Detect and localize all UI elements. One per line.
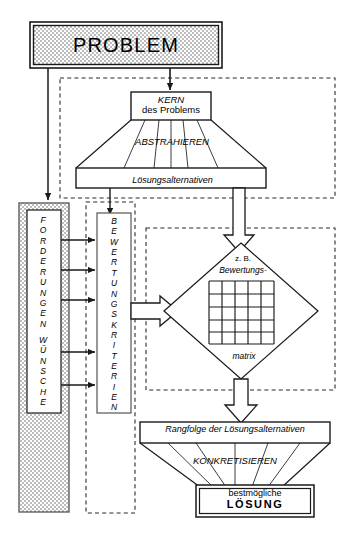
stacked-letter: N [99, 289, 129, 299]
bewertungs-label: Bewertungs- [206, 266, 280, 275]
bewertungskriterien-label: BEWERTUNGSKRITERIEN [99, 216, 129, 413]
stacked-letter: U [28, 277, 58, 287]
stacked-letter: E [28, 308, 58, 318]
stacked-letter: W [28, 335, 58, 345]
stacked-letter: W [99, 237, 129, 247]
stacked-letter: R [99, 371, 129, 381]
stacked-letter: N [28, 356, 58, 366]
loesung-qualifier: bestmögliche [200, 489, 310, 498]
stacked-letter: C [28, 376, 58, 386]
stacked-letter: F [28, 215, 58, 225]
stacked-letter: R [99, 257, 129, 267]
stacked-letter: G [28, 298, 58, 308]
loesung-title: LÖSUNG [200, 499, 310, 511]
zb-label: z. B. [223, 255, 263, 263]
forderungen-wuensche-label: FORDERUNGEN WÜNSCHE [28, 215, 58, 407]
stacked-letter: I [99, 340, 129, 350]
kern-subtitle: des Problems [133, 105, 209, 115]
stacked-letter: H [28, 387, 58, 397]
rangfolge-label: Rangfolge der Lösungsalternativen [140, 425, 330, 434]
stacked-letter: E [28, 256, 58, 266]
kern-label: KERN des Problems [133, 95, 209, 115]
stacked-letter: S [99, 309, 129, 319]
stacked-letter: E [99, 392, 129, 402]
stacked-letter: D [28, 246, 58, 256]
stacked-letter: N [28, 288, 58, 298]
stacked-letter: G [99, 299, 129, 309]
stacked-letter: N [99, 402, 129, 412]
stacked-letter: E [99, 226, 129, 236]
stacked-letter: I [99, 382, 129, 392]
stacked-letter: E [28, 397, 58, 407]
konkretisieren-label: KONKRETISIEREN [165, 456, 305, 466]
loesung-label: bestmögliche LÖSUNG [200, 489, 310, 511]
loesungsalternativen-label: Lösungsalternativen [100, 176, 245, 185]
stacked-letter: E [99, 247, 129, 257]
stacked-letter: T [99, 268, 129, 278]
stacked-letter: E [99, 361, 129, 371]
loesungsalt-to-matrix-block-arrow [224, 188, 254, 252]
problem-label: PROBLEM [36, 28, 216, 62]
stacked-letter: O [28, 225, 58, 235]
stacked-letter: K [99, 320, 129, 330]
stacked-letter: S [28, 366, 58, 376]
stacked-letter: B [99, 216, 129, 226]
stacked-letter: U [99, 278, 129, 288]
stacked-letter: R [28, 267, 58, 277]
stacked-letter: Ü [28, 345, 58, 355]
diagram-canvas: PROBLEM KERN des Problems ABSTRAHIEREN L… [0, 0, 357, 547]
stacked-letter: N [28, 319, 58, 329]
stacked-letter: T [99, 351, 129, 361]
stacked-letter: R [28, 236, 58, 246]
matrix-to-ranking-block-arrow [225, 379, 257, 423]
stacked-letter: R [99, 330, 129, 340]
abstrahieren-label: ABSTRAHIEREN [120, 137, 224, 147]
matrix-label: matrix [224, 352, 264, 361]
